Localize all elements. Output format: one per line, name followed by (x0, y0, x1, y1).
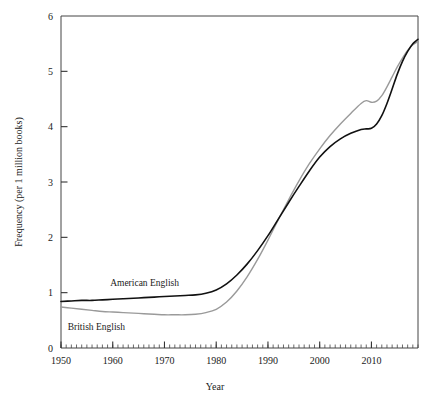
chart-background (0, 0, 431, 405)
chart-canvas: 0123456 1950196019701980199020002010 Ame… (0, 0, 431, 405)
y-tick-label: 0 (48, 343, 53, 354)
x-axis-title: Year (206, 381, 225, 392)
y-tick-label: 3 (48, 177, 53, 188)
x-tick-label: 1950 (51, 355, 71, 366)
x-tick-label: 1970 (154, 355, 174, 366)
y-tick-label: 4 (48, 121, 53, 132)
series-label-american-english: American English (110, 278, 179, 288)
y-tick-label: 5 (48, 66, 53, 77)
line-chart: 0123456 1950196019701980199020002010 Ame… (0, 0, 431, 405)
y-tick-label: 6 (48, 11, 53, 22)
y-tick-label: 1 (48, 287, 53, 298)
x-tick-label: 1960 (103, 355, 123, 366)
y-axis-title: Frequency (per 1 million books) (13, 117, 25, 246)
x-tick-label: 2010 (361, 355, 381, 366)
x-tick-label: 1980 (206, 355, 226, 366)
x-tick-label: 1990 (258, 355, 278, 366)
series-label-british-english: British English (68, 322, 126, 332)
x-tick-label: 2000 (310, 355, 330, 366)
y-tick-label: 2 (48, 232, 53, 243)
